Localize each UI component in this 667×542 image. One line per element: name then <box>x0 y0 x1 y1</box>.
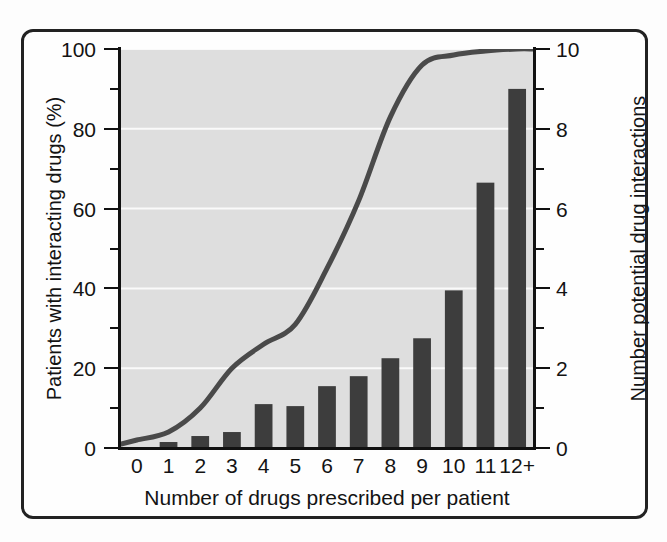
cumulative-line <box>121 49 533 444</box>
x-axis-tick-label: 4 <box>258 455 270 476</box>
y-axis-left-major-tick <box>104 208 119 210</box>
bar <box>382 358 400 448</box>
y-axis-right-major-tick <box>535 447 550 449</box>
bar <box>286 406 304 448</box>
y-axis-left-major-tick <box>104 128 119 130</box>
bar <box>477 183 495 448</box>
y-axis-right-minor-tick <box>535 168 544 170</box>
y-axis-left-major-tick <box>104 367 119 369</box>
x-axis-spine <box>118 447 536 450</box>
y-axis-right-minor-tick <box>535 248 544 250</box>
y-axis-left-major-tick <box>104 48 119 50</box>
bar <box>255 404 273 448</box>
y-axis-right-title: Number potential drug interactions <box>628 49 654 448</box>
y-axis-right-major-tick <box>535 208 550 210</box>
y-axis-right-tick-label: 8 <box>556 118 568 139</box>
bar <box>413 338 431 448</box>
x-axis-tick-label: 3 <box>226 455 238 476</box>
y-axis-right-major-tick <box>535 48 550 50</box>
x-axis-title: Number of drugs prescribed per patient <box>121 487 533 508</box>
line-path <box>121 49 533 444</box>
y-axis-right-tick-label: 6 <box>556 198 568 219</box>
y-axis-left-title: Patients with interacting drugs (%) <box>44 49 70 448</box>
y-axis-right-minor-tick <box>535 88 544 90</box>
y-axis-right-minor-tick <box>535 327 544 329</box>
y-axis-left-tick-label: 80 <box>73 118 96 139</box>
y-axis-left-tick-label: 60 <box>73 198 96 219</box>
y-axis-left-minor-tick <box>110 327 119 329</box>
bar <box>318 386 336 448</box>
y-axis-right-major-tick <box>535 287 550 289</box>
y-axis-right-tick-label: 2 <box>556 358 568 379</box>
bar <box>508 89 526 448</box>
x-axis-tick-label: 12+ <box>499 455 535 476</box>
x-axis-tick-label: 7 <box>353 455 365 476</box>
plot-area <box>121 49 533 448</box>
y-axis-right-tick-label: 0 <box>556 438 568 459</box>
x-axis-tick-label: 8 <box>385 455 397 476</box>
x-axis-tick-label: 5 <box>289 455 301 476</box>
y-axis-right-minor-tick <box>535 407 544 409</box>
y-axis-right-tick-label: 10 <box>556 39 579 60</box>
figure-root: 02040608010002468100123456789101112+ Pat… <box>0 0 667 542</box>
gridlines <box>121 49 533 368</box>
bar <box>350 376 368 448</box>
y-axis-left-minor-tick <box>110 407 119 409</box>
y-axis-left-major-tick <box>104 287 119 289</box>
plot-canvas <box>121 49 533 448</box>
x-axis-tick-label: 10 <box>442 455 465 476</box>
y-axis-left-minor-tick <box>110 168 119 170</box>
y-axis-right-major-tick <box>535 367 550 369</box>
x-axis-tick-label: 6 <box>321 455 333 476</box>
x-axis-tick-label: 0 <box>131 455 143 476</box>
x-axis-tick-label: 9 <box>416 455 428 476</box>
bar <box>445 290 463 448</box>
y-axis-left-tick-label: 20 <box>73 358 96 379</box>
y-axis-left-tick-label: 0 <box>84 438 96 459</box>
y-axis-left-tick-label: 40 <box>73 278 96 299</box>
x-axis-tick-label: 2 <box>194 455 206 476</box>
x-axis-tick-label: 1 <box>163 455 175 476</box>
y-axis-left-minor-tick <box>110 88 119 90</box>
y-axis-left-major-tick <box>104 447 119 449</box>
x-axis-tick-label: 11 <box>475 455 497 476</box>
y-axis-right-tick-label: 4 <box>556 278 568 299</box>
bar <box>223 432 241 448</box>
y-axis-left-minor-tick <box>110 248 119 250</box>
y-axis-right-major-tick <box>535 128 550 130</box>
